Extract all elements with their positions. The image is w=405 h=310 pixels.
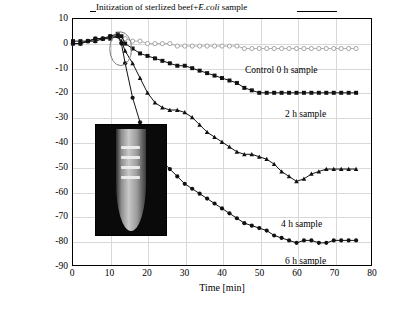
y-tick-label-3: -20 [38, 87, 68, 97]
y-tick-label-2: -10 [38, 63, 68, 73]
x-tick-label-6: 60 [285, 268, 309, 278]
photo-background [96, 125, 166, 235]
x-tick-label-5: 50 [248, 268, 272, 278]
x-tick-label-7: 70 [323, 268, 347, 278]
series-label-6h: 6 h sample [285, 256, 326, 266]
tube-body [116, 129, 147, 230]
chart-root: Resonant frequency change [Hz] Initizati… [0, 0, 405, 310]
tube-band-4 [121, 176, 140, 179]
annotation-text-part3: sample [220, 2, 248, 12]
tube-band-3 [121, 166, 140, 169]
series-label-2h: 2 h sample [285, 109, 326, 119]
y-tick-label-7: -60 [38, 187, 68, 197]
tube-band-1 [121, 146, 140, 149]
annotation-text-italic: E.coli [198, 2, 219, 12]
y-tick-label-0: 10 [38, 13, 68, 23]
tube-band-2 [121, 156, 140, 159]
y-tick-label-5: -40 [38, 137, 68, 147]
x-tick-label-3: 30 [173, 268, 197, 278]
x-axis-title: Time [min] [72, 282, 372, 293]
plot-area: Control 0 h sample 2 h sample 4 h sample… [72, 18, 372, 266]
annotation-initization: Initization of sterlized beef+E.coli sam… [96, 2, 247, 12]
x-tick-label-2: 20 [135, 268, 159, 278]
annotation-leader-left [90, 11, 96, 12]
annotation-text-part1: Initization of sterlized beef+ [96, 2, 198, 12]
y-tick-label-1: 0 [38, 38, 68, 48]
x-tick-label-4: 40 [210, 268, 234, 278]
annotation-leader-right [297, 11, 337, 12]
y-tick-label-8: -70 [38, 211, 68, 221]
x-tick-label-0: 0 [60, 268, 84, 278]
x-tick-label-1: 10 [98, 268, 122, 278]
y-tick-label-9: -80 [38, 236, 68, 246]
y-tick-label-4: -30 [38, 112, 68, 122]
y-tick-label-6: -50 [38, 162, 68, 172]
x-tick-label-8: 80 [360, 268, 384, 278]
series-label-4h: 4 h sample [281, 219, 322, 229]
test-tube-photo [95, 124, 167, 236]
series-label-control-0h: Control 0 h sample [245, 65, 318, 75]
